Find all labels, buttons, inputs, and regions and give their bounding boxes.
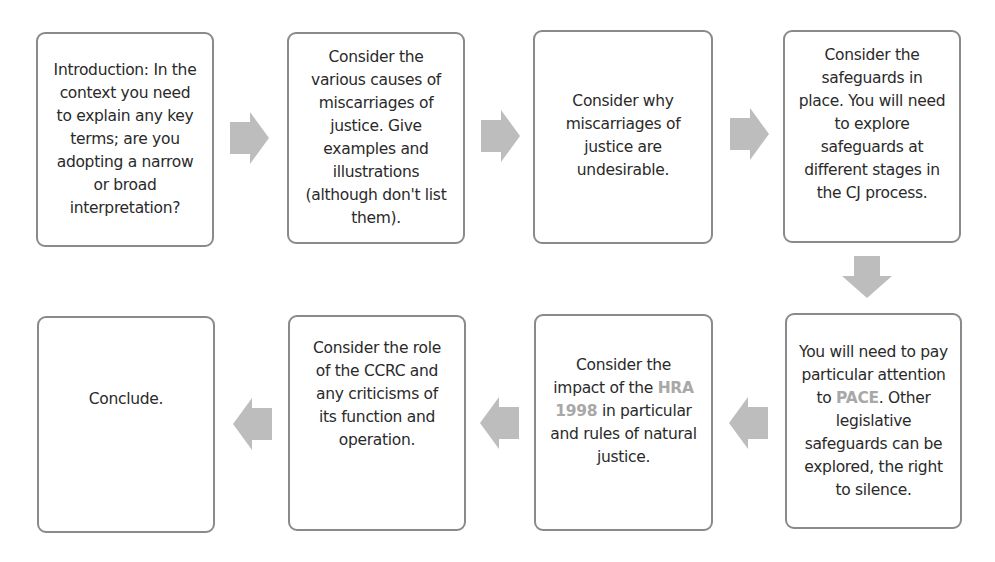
step-4-text: Consider the safeguards in place. You wi…: [797, 44, 947, 205]
arrow-left-icon: [728, 397, 768, 449]
arrow-right-icon: [230, 112, 270, 164]
step-5-text: You will need to pay particular attentio…: [799, 341, 949, 502]
arrow-right-icon: [481, 110, 521, 162]
pace-highlight: PACE: [836, 389, 879, 407]
arrow-down-icon: [842, 256, 892, 298]
step-6-text: Consider the impact of the HRA 1998 in p…: [549, 354, 699, 469]
step-7-ccrc-box: Consider the role of the CCRC and any cr…: [288, 315, 466, 531]
step-7-text: Consider the role of the CCRC and any cr…: [307, 337, 447, 452]
step-4-safeguards-box: Consider the safeguards in place. You wi…: [783, 30, 961, 243]
step-6-hra-box: Consider the impact of the HRA 1998 in p…: [534, 314, 713, 531]
step-3-text: Consider why miscarriages of justice are…: [558, 90, 688, 182]
step-6-text-before: Consider the impact of the: [553, 356, 671, 397]
step-8-text: Conclude.: [89, 388, 163, 411]
arrow-left-icon: [479, 397, 519, 449]
step-8-conclude-box: Conclude.: [37, 316, 215, 533]
arrow-right-icon: [730, 108, 770, 160]
step-1-introduction-box: Introduction: In the context you need to…: [36, 32, 214, 247]
arrow-left-icon: [232, 398, 272, 450]
step-1-text: Introduction: In the context you need to…: [50, 59, 200, 220]
step-5-pace-box: You will need to pay particular attentio…: [785, 313, 962, 529]
step-3-undesirable-box: Consider why miscarriages of justice are…: [533, 30, 713, 244]
step-2-text: Consider the various causes of miscarria…: [301, 46, 451, 230]
step-2-causes-box: Consider the various causes of miscarria…: [287, 32, 465, 244]
